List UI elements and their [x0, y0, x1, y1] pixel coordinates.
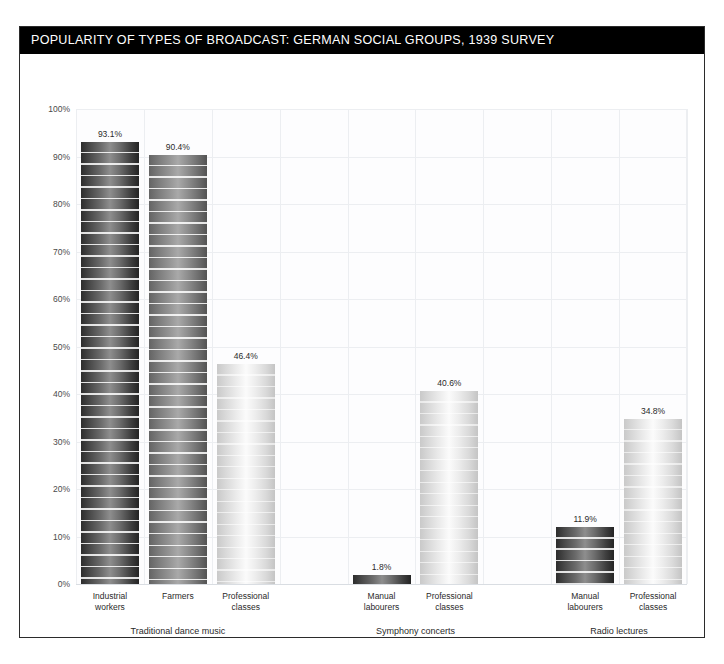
- bar-texture: [624, 419, 682, 584]
- bar-value-label: 34.8%: [610, 406, 696, 416]
- bar-texture: [217, 364, 275, 584]
- bar[interactable]: [81, 142, 139, 584]
- gridline-vertical: [483, 109, 484, 584]
- bar-value-label: 93.1%: [67, 129, 153, 139]
- y-axis-tick-label: 60%: [24, 294, 70, 304]
- x-axis-category-label: Professionalclasses: [404, 591, 494, 612]
- category-label-line1: Professional: [608, 591, 698, 602]
- category-label-line2: classes: [608, 602, 698, 613]
- y-axis-tick-label: 90%: [24, 152, 70, 162]
- bar-slot: 1.8%: [353, 109, 411, 584]
- bar-texture: [149, 155, 207, 584]
- x-axis-group-label: Symphony concerts: [315, 626, 515, 636]
- bar-texture: [420, 391, 478, 584]
- chart-title-bar: POPULARITY OF TYPES OF BROADCAST: GERMAN…: [20, 27, 704, 54]
- category-label-line2: classes: [201, 602, 291, 613]
- y-axis-tick-label: 50%: [24, 342, 70, 352]
- y-axis-tick-label: 30%: [24, 437, 70, 447]
- bar[interactable]: [556, 527, 614, 584]
- y-axis: 0%10%20%30%40%50%60%70%80%90%100%: [20, 109, 70, 584]
- bar-texture: [556, 527, 614, 584]
- gridline-horizontal: [76, 584, 687, 585]
- y-axis-tick-label: 80%: [24, 199, 70, 209]
- y-axis-tick-label: 20%: [24, 484, 70, 494]
- page-title: POPULARITY OF TYPES OF BROADCAST: GERMAN…: [31, 32, 554, 47]
- bar-texture: [81, 142, 139, 584]
- bar-texture: [353, 575, 411, 584]
- y-axis-tick-label: 0%: [24, 579, 70, 589]
- category-label-line1: Professional: [404, 591, 494, 602]
- bar-slot: 11.9%: [556, 109, 614, 584]
- chart-figure: POPULARITY OF TYPES OF BROADCAST: GERMAN…: [19, 26, 705, 638]
- bar[interactable]: [353, 575, 411, 584]
- bar[interactable]: [149, 155, 207, 584]
- bar-value-label: 40.6%: [406, 378, 492, 388]
- bar-slot: 40.6%: [420, 109, 478, 584]
- gridline-vertical: [551, 109, 552, 584]
- bar-value-label: 1.8%: [339, 562, 425, 572]
- gridline-vertical: [280, 109, 281, 584]
- category-label-line2: classes: [404, 602, 494, 613]
- x-axis-category-label: Professionalclasses: [201, 591, 291, 612]
- category-label-line2: workers: [65, 602, 155, 613]
- gridline-vertical: [415, 109, 416, 584]
- gridline-vertical: [212, 109, 213, 584]
- y-axis-tick-label: 40%: [24, 389, 70, 399]
- y-axis-tick-label: 10%: [24, 532, 70, 542]
- bar[interactable]: [217, 364, 275, 584]
- bar[interactable]: [624, 419, 682, 584]
- bar-slot: 90.4%: [149, 109, 207, 584]
- plot-container: 0%10%20%30%40%50%60%70%80%90%100% 93.1%9…: [20, 54, 704, 639]
- gridline-vertical: [144, 109, 145, 584]
- plot-area: 93.1%90.4%46.4%1.8%40.6%11.9%34.8%: [76, 109, 687, 584]
- bar-slot: 93.1%: [81, 109, 139, 584]
- x-axis-group-label: Traditional dance music: [78, 626, 278, 636]
- gridline-vertical: [76, 109, 77, 584]
- x-axis-group-label: Radio lectures: [519, 626, 719, 636]
- bar-value-label: 46.4%: [203, 351, 289, 361]
- bar-value-label: 11.9%: [542, 514, 628, 524]
- y-axis-tick-label: 70%: [24, 247, 70, 257]
- bar-value-label: 90.4%: [135, 142, 221, 152]
- category-label-line1: Professional: [201, 591, 291, 602]
- x-axis-category-label: Professionalclasses: [608, 591, 698, 612]
- gridline-vertical: [619, 109, 620, 584]
- bar-slot: 46.4%: [217, 109, 275, 584]
- y-axis-tick-label: 100%: [24, 104, 70, 114]
- gridline-vertical: [348, 109, 349, 584]
- gridline-vertical: [687, 109, 688, 584]
- bar[interactable]: [420, 391, 478, 584]
- bar-slot: 34.8%: [624, 109, 682, 584]
